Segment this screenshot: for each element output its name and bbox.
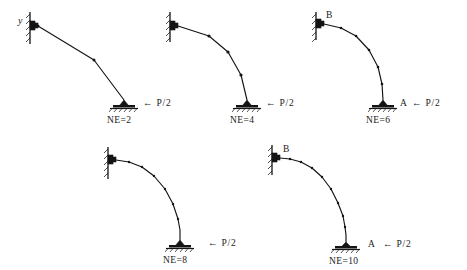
node-dot — [381, 83, 384, 86]
ne-label-ne10: NE=10 — [329, 257, 359, 267]
pinned-support-icon — [109, 100, 138, 112]
y-axis-label: y — [18, 16, 23, 26]
pinned-support-icon — [232, 100, 261, 112]
wall-support-icon — [268, 145, 280, 175]
node-dot — [226, 50, 229, 53]
load-label-ne4: ← P/2 — [266, 99, 295, 109]
node-dot — [300, 161, 302, 163]
node-dot — [141, 166, 143, 168]
node-dot — [377, 66, 380, 69]
point-label-a-ne10: A — [368, 240, 375, 250]
node-dot — [207, 34, 210, 37]
node-dot — [289, 158, 291, 160]
node-dot — [342, 215, 344, 217]
pinned-support-icon — [165, 240, 194, 252]
node-dot — [177, 218, 179, 220]
deformed-member — [38, 26, 124, 100]
panel-ne6: B A ← P/2 NE=6 — [300, 0, 467, 135]
ne8-drawing — [80, 135, 260, 270]
panel-ne10: B A ← P/2 NE=10 — [250, 135, 467, 270]
ne-label-ne6: NE=6 — [366, 116, 390, 126]
point-label-b-ne10: B — [283, 145, 290, 155]
node-dot — [321, 176, 323, 178]
node-dot — [128, 161, 130, 163]
panel-ne8: ← P/2 NE=8 — [80, 135, 260, 270]
panel-ne4: ← P/2 NE=4 — [155, 0, 305, 135]
wall-support-icon — [26, 12, 38, 44]
node-dot — [355, 35, 358, 38]
deformed-member — [178, 26, 247, 100]
node-dot — [153, 175, 155, 177]
wall-support-icon — [104, 147, 116, 179]
deformed-member — [116, 160, 180, 240]
node-dot — [344, 226, 346, 228]
ne2-drawing — [0, 0, 160, 135]
deformed-member — [324, 24, 383, 100]
node-dot — [311, 167, 313, 169]
load-label-ne10: ← P/2 — [383, 240, 412, 250]
pinned-support-icon — [331, 242, 360, 253]
finite-element-deformed-shape-figure: y — [0, 0, 467, 270]
ne-label-ne8: NE=8 — [163, 256, 187, 266]
load-label-ne8: ← P/2 — [208, 239, 237, 249]
pinned-support-icon — [368, 100, 397, 112]
wall-support-icon — [312, 12, 324, 42]
deformed-member — [280, 158, 346, 242]
node-dot — [37, 25, 40, 28]
ne-label-ne4: NE=4 — [230, 116, 254, 126]
node-dot — [368, 49, 371, 52]
node-dot — [239, 73, 242, 76]
node-dot — [337, 202, 339, 204]
node-dot — [93, 59, 96, 62]
ne10-drawing — [250, 135, 467, 270]
point-label-a-ne6: A — [400, 99, 407, 109]
point-label-b-ne6: B — [326, 11, 333, 21]
panel-ne2: y — [0, 0, 160, 135]
load-label-ne6: ← P/2 — [412, 99, 441, 109]
node-dot — [164, 188, 166, 190]
node-dot — [330, 188, 332, 190]
wall-support-icon — [166, 12, 178, 42]
node-dot — [172, 203, 174, 205]
node-dot — [340, 27, 343, 30]
ne-label-ne2: NE=2 — [107, 116, 131, 126]
